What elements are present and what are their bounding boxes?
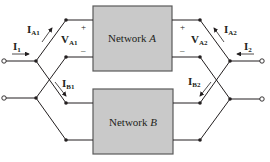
label-ib1: IB1 [62,77,75,91]
minus-left-icon: – [80,45,86,55]
label-va1: VA1 [61,33,78,47]
svg-text:Network A: Network A [108,32,156,44]
network-b-label: Network [109,116,150,128]
svg-text:Network B: Network B [109,116,157,128]
network-a-letter: A [148,32,156,44]
label-i1: I1 [13,40,21,54]
label-ia2: IA2 [224,23,237,37]
label-i2: I2 [244,40,252,54]
circuit-diagram: Network A Network B [0,0,270,162]
label-va2: VA2 [191,33,208,47]
terminal-left-top [2,59,6,63]
arrow-ib2-icon [200,82,211,96]
plus-left-icon: + [81,22,86,32]
network-b-box: Network B [93,89,173,154]
network-a-box: Network A [93,6,172,71]
plus-right-icon: + [180,22,185,32]
label-ia1: IA1 [27,23,40,37]
network-b-letter: B [150,116,157,128]
label-ib2: IB2 [188,75,201,89]
arrow-ia2-icon [214,28,224,42]
terminal-left-bottom [2,96,6,100]
terminal-right-bottom [260,97,264,101]
terminal-right-top [260,59,264,63]
minus-right-icon: – [179,45,185,55]
network-a-label: Network [108,32,149,44]
arrow-ia1-icon [42,28,52,42]
